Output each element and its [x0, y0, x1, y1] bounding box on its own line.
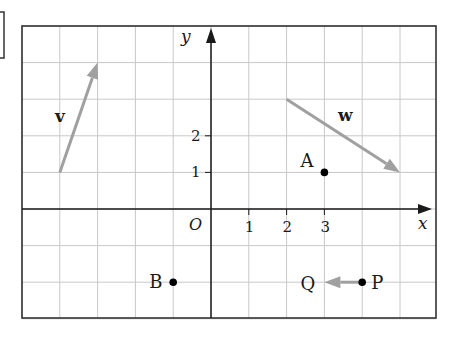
- arrowhead-icon: [87, 63, 98, 80]
- arrowhead-icon: [383, 159, 400, 173]
- point-label-P: P: [371, 272, 383, 293]
- coordinate-diagram: 12312 vw ABPQ y x O: [0, 0, 457, 339]
- ticks: 12312: [191, 127, 330, 236]
- point-A: [321, 169, 329, 177]
- x-tick-label: 2: [283, 218, 293, 236]
- point-P: [358, 278, 366, 286]
- origin-label: O: [189, 215, 202, 234]
- x-axis-label: x: [418, 213, 428, 233]
- y-tick-label: 2: [191, 127, 201, 145]
- y-axis-label: y: [180, 26, 191, 46]
- x-tick-label: 1: [245, 218, 255, 236]
- y-axis-arrow-icon: [206, 28, 216, 43]
- point-label-A: A: [299, 150, 314, 171]
- vector-label-w: w: [337, 105, 353, 125]
- vector-label-v: v: [54, 106, 66, 126]
- vectors: vw: [54, 63, 400, 289]
- cropped-box: [0, 12, 4, 58]
- point-label-B: B: [149, 271, 162, 292]
- y-tick-label: 1: [191, 163, 201, 181]
- point-label-Q: Q: [300, 273, 315, 294]
- x-tick-label: 3: [320, 218, 330, 236]
- arrowhead-icon: [324, 276, 340, 288]
- point-B: [169, 278, 177, 286]
